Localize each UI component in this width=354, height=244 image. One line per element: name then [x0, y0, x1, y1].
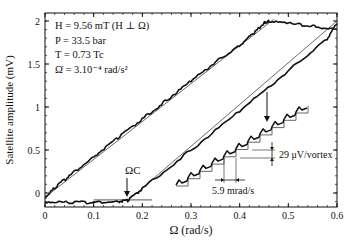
y-tick-label: 0.5 [28, 145, 41, 156]
arrow-head-icon [124, 191, 130, 197]
y-axis-label: Satellite amplitude (mV) [3, 55, 16, 165]
x-tick-label: 0.3 [185, 210, 198, 221]
series-line [128, 21, 337, 201]
vortex-arrow [264, 92, 270, 122]
x-tick-label: 0.5 [282, 210, 295, 221]
x-tick-label: 0 [43, 210, 48, 221]
condition-temperature: T = 0.73 Tc [55, 49, 104, 60]
y-tick-label: 1.5 [28, 59, 41, 70]
x-tick-label: 0.4 [233, 210, 246, 221]
y-tick-label: 0 [35, 188, 40, 199]
y-tick-label: 1 [35, 102, 40, 113]
series-line [45, 20, 337, 198]
arrow-head-icon [264, 116, 270, 122]
x-axis-label: Ω (rad/s) [169, 223, 212, 237]
x-tick-label: 0.6 [331, 210, 344, 221]
staircase-measured [176, 107, 307, 185]
step-height-label: 29 μV/vortex [279, 149, 332, 160]
omega-c-label: ΩC [125, 164, 141, 176]
chart-figure: 00.10.20.30.40.50.6 00.511.52 Ω (rad/s) … [0, 0, 354, 244]
x-tick-label: 0.2 [136, 210, 149, 221]
step-height-annotation: 29 μV/vortex [240, 142, 332, 166]
conditions-annotation: H = 9.56 mT (H ⊥ Ω) P = 33.5 bar T = 0.7… [55, 20, 150, 75]
condition-pressure: P = 33.5 bar [55, 35, 107, 46]
condition-field: H = 9.56 mT (H ⊥ Ω) [55, 20, 150, 32]
x-tick-label: 0.1 [87, 210, 100, 221]
staircase-inset [176, 106, 308, 186]
condition-acceleration: Ω̇ = 3.10⁻⁴ rad/s² [55, 64, 128, 75]
step-width-label: 5.9 mrad/s [212, 185, 254, 196]
data-series [45, 19, 337, 204]
y-tick-label: 2 [35, 16, 40, 27]
chart-svg: 00.10.20.30.40.50.6 00.511.52 Ω (rad/s) … [0, 0, 354, 244]
